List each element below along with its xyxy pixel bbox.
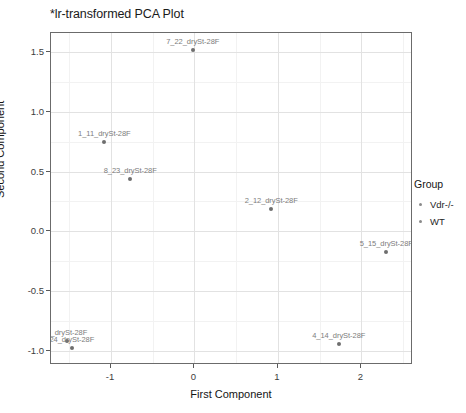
data-point xyxy=(384,250,388,254)
x-axis-tick-label: -1 xyxy=(106,371,114,382)
legend: Group Vdr-/-WT xyxy=(414,178,454,230)
y-axis-tick-mark xyxy=(46,111,50,112)
y-axis-tick-mark xyxy=(46,171,50,172)
data-point xyxy=(191,48,195,52)
y-axis-tick-label: -1.0 xyxy=(14,344,44,355)
data-point xyxy=(269,207,273,211)
y-axis-tick-label: 1.5 xyxy=(14,46,44,57)
legend-point-icon xyxy=(414,203,427,206)
y-axis-tick-mark xyxy=(46,230,50,231)
legend-point-icon xyxy=(414,220,427,223)
gridline-minor-horizontal xyxy=(51,261,411,262)
gridline-major-horizontal xyxy=(51,291,411,292)
legend-item-label: Vdr-/- xyxy=(430,199,454,210)
gridline-major-horizontal xyxy=(51,351,411,352)
gridline-minor-horizontal xyxy=(51,82,411,83)
gridline-minor-horizontal xyxy=(51,321,411,322)
data-point xyxy=(70,346,74,350)
data-point-label: 4_14_dryS​t-28F xyxy=(312,331,365,340)
y-axis-tick-label: 0.5 xyxy=(14,165,44,176)
data-point xyxy=(102,140,106,144)
data-point-label: 1_11_dryS​t-28F xyxy=(78,129,131,138)
x-axis-tick-label: 0 xyxy=(191,371,196,382)
data-point-label: 7_22_dryS​t-28F xyxy=(166,37,219,46)
y-axis-label: Second Component xyxy=(0,101,6,198)
x-axis-tick-mark xyxy=(360,364,361,368)
gridline-major-horizontal xyxy=(51,52,411,53)
data-point xyxy=(128,177,132,181)
data-point-label: 2_12_dryS​t-28F xyxy=(245,196,298,205)
legend-item[interactable]: Vdr-/- xyxy=(414,196,454,213)
x-axis-tick-mark xyxy=(193,364,194,368)
gridline-major-horizontal xyxy=(51,231,411,232)
plot-panel: 7_22_dryS​t-28F1_11_dryS​t-28F8_23_dryS​… xyxy=(50,32,412,364)
x-axis-tick-label: 1 xyxy=(274,371,279,382)
data-point xyxy=(337,342,341,346)
gridline-major-horizontal xyxy=(51,112,411,113)
y-axis-tick-mark xyxy=(46,350,50,351)
data-point-label: 24_dryS​t-28F xyxy=(50,335,94,344)
gridline-major-vertical xyxy=(111,33,112,363)
x-axis-label: First Component xyxy=(190,388,271,400)
y-axis-tick-label: 0.0 xyxy=(14,225,44,236)
y-axis-tick-label: -0.5 xyxy=(14,284,44,295)
data-point-label: 5_15_dryS​t-28F xyxy=(360,239,412,248)
legend-item-label: WT xyxy=(430,216,445,227)
gridline-major-vertical xyxy=(194,33,195,363)
page-title: *lr-transformed PCA Plot xyxy=(50,7,184,21)
x-axis-tick-label: 2 xyxy=(358,371,363,382)
legend-title: Group xyxy=(414,178,454,190)
legend-item[interactable]: WT xyxy=(414,213,454,230)
pca-scatter-plot: *lr-transformed PCA Plot 7_22_dryS​t-28F… xyxy=(0,0,466,413)
y-axis-tick-mark xyxy=(46,290,50,291)
gridline-minor-horizontal xyxy=(51,201,411,202)
x-axis-tick-mark xyxy=(110,364,111,368)
gridline-major-vertical xyxy=(361,33,362,363)
y-axis-tick-label: 1.0 xyxy=(14,105,44,116)
y-axis-tick-mark xyxy=(46,51,50,52)
x-axis-tick-mark xyxy=(277,364,278,368)
data-point-label: 8_23_dryS​t-28F xyxy=(104,166,157,175)
legend-items: Vdr-/-WT xyxy=(414,196,454,230)
